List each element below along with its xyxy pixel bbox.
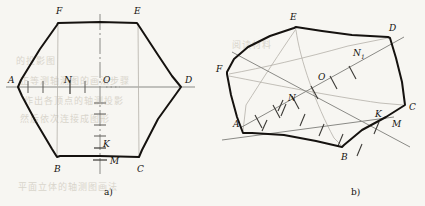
panel-b-tick-x0	[262, 120, 267, 131]
panel-a-construction-right	[138, 23, 139, 157]
panel-b-hexagon-outline	[227, 27, 405, 147]
panel-a-label-D: D	[184, 75, 192, 85]
panel-b-tick-l4	[357, 144, 362, 156]
panel-a-label-B: B	[53, 164, 61, 174]
panel-a-label-F: F	[55, 6, 63, 16]
panel-b-tick-0	[255, 115, 262, 128]
panel-b-label-N: N	[287, 93, 297, 103]
panel-b-caption: b)	[351, 187, 360, 197]
panel-a-label-M: M	[109, 156, 120, 166]
panel-a-construction-left	[57, 23, 58, 157]
panel-a-label-C: C	[137, 164, 144, 174]
panel-b-label-M: M	[391, 119, 402, 129]
panel-b-tick-l2	[319, 124, 324, 136]
panel-b-group: E D C B A F O N K M N1 b)	[215, 12, 416, 197]
panel-b-tick-4	[330, 76, 337, 89]
panel-b-label-B: B	[340, 152, 348, 162]
panel-b-tick-group-left	[262, 100, 283, 131]
panel-a-label-A: A	[7, 75, 15, 85]
panel-a-label-K: K	[102, 139, 111, 149]
panel-b-label-K: K	[374, 109, 383, 119]
panel-b-label-C: C	[409, 102, 416, 112]
panel-b-label-E: E	[289, 12, 297, 22]
panel-b-label-N1-subscript: 1	[361, 53, 365, 60]
panel-b-label-F: F	[215, 64, 223, 74]
panel-a-group: A F E D C B O N K M a)	[6, 6, 195, 197]
panel-b-label-N1: N1	[352, 48, 365, 60]
panel-a-label-O: O	[103, 75, 111, 85]
panel-b-tick-5	[349, 66, 356, 79]
panel-a-label-N: N	[63, 75, 73, 85]
panel-b-tick-l1	[300, 114, 305, 126]
panel-b-axis-x	[222, 117, 394, 140]
technical-drawing: A F E D C B O N K M a)	[0, 0, 425, 206]
figure-container: 阅读材料 的投影图 正等测轴测图的画法步骤 作出各顶点的轴测投影 然后依次连接成…	[0, 0, 425, 206]
panel-b-tick-l0	[281, 104, 286, 116]
panel-b-construction-E-to-B	[296, 30, 341, 145]
panel-b-label-A: A	[232, 119, 240, 129]
panel-b-label-O: O	[318, 72, 326, 82]
panel-b-label-D: D	[388, 23, 396, 33]
panel-a-label-E: E	[133, 6, 141, 16]
panel-b-tick-x1	[278, 100, 283, 111]
panel-a-caption: a)	[104, 187, 113, 197]
